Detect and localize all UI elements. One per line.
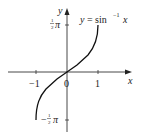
x-tick-label-origin: 0 [64,78,69,89]
svg-text:2: 2 [48,120,51,125]
svg-text:2: 2 [51,25,54,30]
y-tick-label-half-pi: 1 2 π [50,18,61,30]
svg-text:1: 1 [48,113,51,118]
svg-text:x: x [122,14,128,25]
svg-text:1: 1 [51,18,54,23]
x-axis-label: x [127,75,133,86]
x-axis-arrow-icon [125,70,132,75]
arcsin-chart: y x −1 0 1 1 2 π − 1 2 π y = sin −1 x [0,0,142,136]
svg-text:y = sin: y = sin [79,14,107,25]
x-tick-label-neg1: −1 [29,78,40,89]
x-tick-label-pos1: 1 [95,78,100,89]
y-tick-label-neg-half-pi: − 1 2 π [41,113,59,125]
svg-text:π: π [55,19,61,30]
y-axis-arrow-icon [65,8,70,15]
svg-text:−: − [41,114,47,125]
svg-text:−1: −1 [113,12,119,18]
svg-text:π: π [53,114,59,125]
curve-equation-label: y = sin −1 x [79,12,128,25]
y-axis-label: y [57,5,63,16]
